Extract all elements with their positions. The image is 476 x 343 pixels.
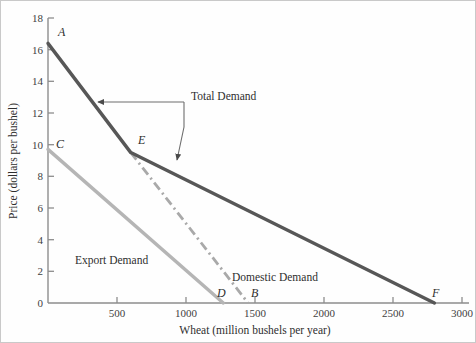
x-tick-label-2500: 2500 [382, 307, 405, 319]
x-axis-title: Wheat (million bushels per year) [179, 324, 331, 337]
y-axis-tick-labels: 18 16 14 12 10 8 6 4 2 0 [32, 12, 44, 309]
leader-arrow-lower [177, 102, 184, 160]
x-tick-label-2000: 2000 [313, 307, 336, 319]
annotation-total-demand: Total Demand [191, 90, 257, 102]
x-tick-label-1000: 1000 [175, 307, 198, 319]
y-tick-label-4: 4 [38, 234, 44, 246]
y-tick-label-8: 8 [38, 170, 44, 182]
y-tick-label-2: 2 [38, 265, 44, 277]
x-axis-tick-labels: 500 1000 1500 2000 2500 3000 [109, 307, 474, 319]
point-label-c: C [56, 137, 65, 151]
y-axis-title: Price (dollars per bushel) [7, 103, 20, 219]
point-label-d: D [216, 286, 226, 300]
y-axis-ticks [48, 18, 54, 271]
y-tick-label-10: 10 [32, 139, 44, 151]
point-label-e: E [137, 133, 146, 147]
annotation-domestic-demand: Domestic Demand [232, 271, 318, 283]
y-tick-label-14: 14 [32, 75, 44, 87]
figure-container: 18 16 14 12 10 8 6 4 2 0 500 1000 1500 2… [0, 0, 476, 343]
annotation-total-demand-leaders [98, 102, 184, 160]
x-tick-label-1500: 1500 [244, 307, 267, 319]
series-export-demand [48, 149, 223, 303]
y-tick-label-0: 0 [38, 297, 44, 309]
x-axis-ticks [117, 297, 462, 303]
demand-curve-chart: 18 16 14 12 10 8 6 4 2 0 500 1000 1500 2… [1, 1, 476, 343]
series-domestic-demand [131, 153, 248, 303]
y-tick-label-6: 6 [38, 202, 44, 214]
point-label-b: B [251, 286, 259, 300]
point-label-a: A [57, 25, 66, 39]
x-tick-label-500: 500 [109, 307, 126, 319]
point-label-f: F [431, 286, 440, 300]
y-tick-label-12: 12 [32, 107, 43, 119]
annotation-export-demand: Export Demand [75, 254, 148, 267]
x-tick-label-3000: 3000 [451, 307, 474, 319]
y-tick-label-18: 18 [32, 12, 44, 24]
y-tick-label-16: 16 [32, 44, 44, 56]
